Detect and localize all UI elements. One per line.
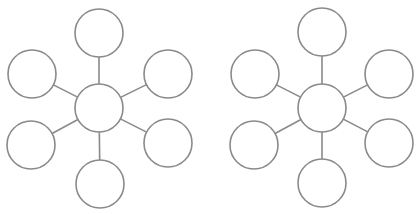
satellite-node-top: [298, 8, 346, 56]
connector-upper-right: [343, 85, 367, 97]
diagram-canvas: [0, 0, 419, 214]
web-right: [230, 8, 413, 207]
connector-upper-right: [121, 85, 147, 98]
connector-lower-right: [120, 119, 146, 132]
satellite-node-upper-left: [231, 50, 279, 98]
satellite-node-lower-right: [144, 119, 192, 167]
satellite-node-lower-left: [7, 121, 55, 169]
connector-lower-left: [275, 119, 301, 133]
satellite-node-upper-left: [8, 50, 56, 98]
spider-diagrams: [0, 0, 419, 214]
connector-lower-left: [52, 119, 78, 133]
connector-upper-left: [53, 85, 77, 97]
satellite-node-bottom: [76, 160, 124, 208]
satellite-node-bottom: [298, 159, 346, 207]
connector-upper-left: [276, 85, 300, 97]
connector-lower-right: [343, 119, 367, 132]
satellite-node-upper-right: [365, 50, 413, 98]
web-left: [7, 9, 192, 208]
satellite-node-upper-right: [144, 50, 192, 98]
satellite-node-top: [75, 9, 123, 57]
center-node: [75, 84, 123, 132]
satellite-node-lower-right: [365, 119, 413, 167]
satellite-node-lower-left: [230, 121, 278, 169]
center-node: [298, 84, 346, 132]
